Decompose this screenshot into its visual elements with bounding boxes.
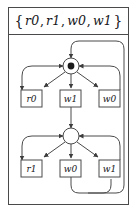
transition-box-top-left-label: r0 xyxy=(26,94,36,104)
transition-box-bottom-left-label: r1 xyxy=(26,164,36,174)
state-node-bottom[interactable] xyxy=(63,128,79,144)
transition-box-top-middle[interactable]: w1 xyxy=(60,90,81,107)
state-node-top-marked-dot xyxy=(68,63,75,70)
transition-box-bottom-right-label: w1 xyxy=(103,164,116,174)
edge-top-node-to-right-box xyxy=(77,72,98,87)
transition-box-bottom-middle[interactable]: w0 xyxy=(60,160,81,177)
edge-bottom-node-to-right-box xyxy=(77,142,98,157)
set-open-brace: { xyxy=(13,13,24,29)
transition-box-top-right-label: w0 xyxy=(103,94,117,104)
state-node-top[interactable] xyxy=(63,58,79,74)
transition-box-top-left[interactable]: r0 xyxy=(21,90,42,107)
edge-bottom-return-path xyxy=(71,177,111,193)
set-close-brace: } xyxy=(112,13,123,29)
event-set-header: { r0, r1, w0, w1 } xyxy=(8,7,129,35)
transition-box-bottom-right[interactable]: w1 xyxy=(99,160,120,177)
transition-box-bottom-middle-label: w0 xyxy=(64,164,78,174)
transition-box-bottom-left[interactable]: r1 xyxy=(21,160,42,177)
state-graph: r0 w1 w0 r1 w0 w1 xyxy=(8,35,129,205)
event-label-2: w0 xyxy=(67,13,87,28)
event-label-1: r1 xyxy=(46,13,61,28)
event-label-3: w1 xyxy=(92,13,112,28)
edge-bottom-node-to-left-box xyxy=(44,142,65,157)
diagram-root: { r0, r1, w0, w1 } xyxy=(0,0,138,213)
event-label-0: r0 xyxy=(25,13,40,28)
edge-top-node-to-left-box xyxy=(44,72,65,87)
state-node-bottom-circle xyxy=(63,128,79,144)
transition-box-top-right[interactable]: w0 xyxy=(99,90,120,107)
transition-box-top-middle-label: w1 xyxy=(64,94,77,104)
